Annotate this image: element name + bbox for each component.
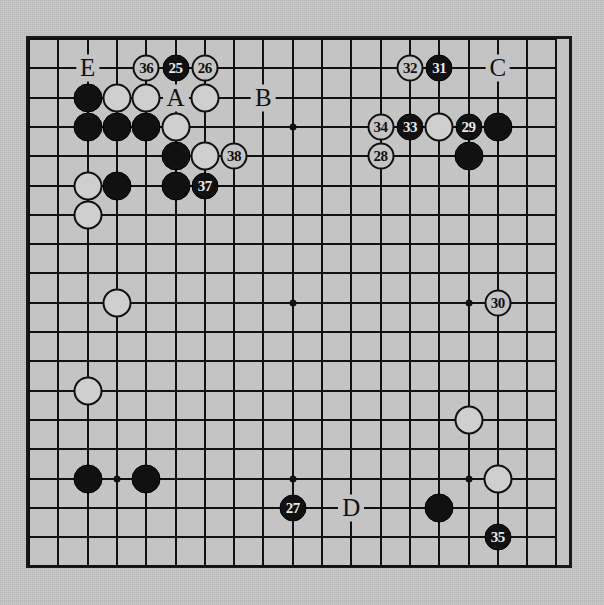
black-stone[interactable] (425, 493, 454, 522)
move-marker-26[interactable]: 26 (191, 55, 218, 82)
black-stone[interactable] (161, 171, 190, 200)
black-stone[interactable] (73, 83, 102, 112)
black-stone[interactable] (102, 112, 131, 141)
move-marker-33[interactable]: 33 (396, 113, 423, 140)
move-marker-28[interactable]: 28 (367, 143, 394, 170)
white-stone[interactable] (102, 288, 131, 317)
move-marker-37[interactable]: 37 (191, 172, 218, 199)
grid-line-horizontal (29, 390, 556, 392)
move-marker-27[interactable]: 27 (279, 494, 306, 521)
star-point (289, 299, 296, 306)
point-label-d: D (338, 494, 364, 521)
star-point (289, 123, 296, 130)
black-stone[interactable] (73, 112, 102, 141)
grid-line-vertical (350, 39, 352, 566)
black-stone[interactable] (132, 464, 161, 493)
move-marker-34[interactable]: 34 (367, 113, 394, 140)
white-stone[interactable] (190, 83, 219, 112)
white-stone[interactable] (102, 83, 131, 112)
white-stone[interactable] (73, 200, 102, 229)
black-stone[interactable] (483, 112, 512, 141)
star-point (113, 475, 120, 482)
grid-line-horizontal (29, 536, 556, 538)
black-stone[interactable] (132, 112, 161, 141)
move-marker-32[interactable]: 32 (396, 55, 423, 82)
grid-line-horizontal (29, 360, 556, 362)
white-stone[interactable] (190, 142, 219, 171)
move-marker-29[interactable]: 29 (455, 113, 482, 140)
black-stone[interactable] (454, 142, 483, 171)
point-label-b: B (251, 84, 276, 111)
grid-line-vertical (321, 39, 323, 566)
point-label-e: E (76, 55, 99, 82)
move-marker-36[interactable]: 36 (133, 55, 160, 82)
move-marker-30[interactable]: 30 (484, 289, 511, 316)
star-point (465, 299, 472, 306)
star-point (465, 475, 472, 482)
go-board[interactable]: EABCD 2930313233342836252638372735 (26, 36, 572, 568)
grid-line-horizontal (29, 565, 556, 567)
white-stone[interactable] (425, 112, 454, 141)
point-label-a: A (162, 84, 188, 111)
move-marker-38[interactable]: 38 (221, 143, 248, 170)
grid-line-vertical (555, 39, 557, 566)
black-stone[interactable] (102, 171, 131, 200)
grid-line-vertical (526, 39, 528, 566)
diagram-page: EABCD 2930313233342836252638372735 (0, 0, 604, 605)
grid-line-horizontal (29, 331, 556, 333)
black-stone[interactable] (161, 142, 190, 171)
grid-line-horizontal (29, 448, 556, 450)
point-label-c: C (485, 55, 510, 82)
white-stone[interactable] (132, 83, 161, 112)
white-stone[interactable] (73, 171, 102, 200)
white-stone[interactable] (483, 464, 512, 493)
white-stone[interactable] (161, 112, 190, 141)
star-point (289, 475, 296, 482)
move-marker-25[interactable]: 25 (162, 55, 189, 82)
black-stone[interactable] (73, 464, 102, 493)
white-stone[interactable] (454, 405, 483, 434)
move-marker-31[interactable]: 31 (426, 55, 453, 82)
white-stone[interactable] (73, 376, 102, 405)
move-marker-35[interactable]: 35 (484, 524, 511, 551)
